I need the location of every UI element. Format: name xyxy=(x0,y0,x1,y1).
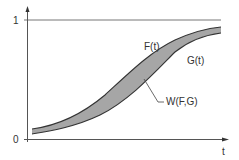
diagram-canvas: 1 0 t F(t) G(t) W(F,G) xyxy=(0,0,239,160)
f-curve-label: F(t) xyxy=(144,41,160,52)
g-curve-label: G(t) xyxy=(187,55,204,66)
y-tick-0: 0 xyxy=(13,134,19,145)
area-label-leader xyxy=(144,79,164,102)
y-tick-1: 1 xyxy=(13,15,19,26)
x-axis-arrow-icon xyxy=(222,138,229,142)
y-axis-arrow-icon xyxy=(26,6,30,12)
x-axis-label: t xyxy=(222,146,225,157)
area-label: W(F,G) xyxy=(166,96,198,107)
area-between-curves xyxy=(32,27,221,134)
